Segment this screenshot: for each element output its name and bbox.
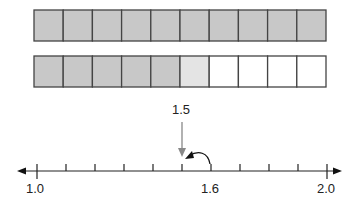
grid-cell — [34, 56, 63, 87]
grid-cell — [151, 56, 180, 87]
grid-cell — [63, 56, 92, 87]
label-end: 2.0 — [317, 181, 335, 196]
grid-cell — [180, 10, 209, 41]
grid-cell — [92, 56, 121, 87]
grid-cell — [238, 10, 267, 41]
label-start: 1.0 — [26, 181, 44, 196]
right-arrowhead-icon — [333, 168, 342, 175]
pointer-label: 1.5 — [172, 102, 190, 117]
grid-cell — [238, 56, 267, 87]
grid-cell — [34, 10, 63, 41]
grid-cell — [151, 10, 180, 41]
grid-cell — [209, 56, 238, 87]
grid-cell — [92, 10, 121, 41]
row-partial — [34, 56, 326, 87]
grid-cell — [122, 10, 151, 41]
row-whole — [34, 10, 326, 41]
left-arrowhead-icon — [17, 168, 26, 175]
grid-cell — [122, 56, 151, 87]
grid-cell — [297, 10, 326, 41]
grid-cell — [209, 10, 238, 41]
grid-cell — [180, 56, 209, 87]
grid-cell — [297, 56, 326, 87]
grid-cell — [63, 10, 92, 41]
grid-cell — [268, 56, 297, 87]
grid-cell — [268, 10, 297, 41]
number-line — [17, 122, 342, 179]
label-mid: 1.6 — [201, 181, 219, 196]
